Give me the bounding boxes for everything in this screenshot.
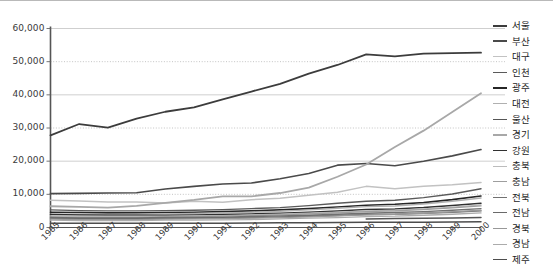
legend-item-충북[interactable]: 충북 [493,158,553,174]
legend-item-label: 전북 [512,193,530,203]
legend-item-제주[interactable]: 제주 [493,252,553,268]
y-tick-label: 10,000 [12,188,44,198]
legend-item-label: 대전 [512,99,530,109]
legend-item-label: 강원 [512,146,530,156]
legend-line-swatch [493,87,507,89]
chart-legend: 서울부산대구인천광주대전울산경기강원충북충남전북전남경북경남제주 [493,18,553,268]
legend-item-인천[interactable]: 인천 [493,65,553,81]
legend-item-label: 울산 [512,115,530,125]
legend-line-swatch [493,103,507,104]
legend-item-광주[interactable]: 광주 [493,80,553,96]
legend-item-label: 경북 [512,224,530,234]
legend-line-swatch [493,228,507,229]
legend-item-경북[interactable]: 경북 [493,221,553,237]
legend-line-swatch [493,197,507,198]
legend-item-서울[interactable]: 서울 [493,18,553,34]
legend-item-전남[interactable]: 전남 [493,205,553,221]
legend-line-swatch [493,56,507,57]
legend-line-swatch [493,244,507,245]
legend-item-label: 충북 [512,161,530,171]
legend-item-충남[interactable]: 충남 [493,174,553,190]
legend-item-label: 전남 [512,208,530,218]
legend-item-대전[interactable]: 대전 [493,96,553,112]
legend-line-swatch [493,25,507,27]
legend-line-swatch [493,212,507,213]
legend-item-울산[interactable]: 울산 [493,112,553,128]
data-series-lines [51,53,482,224]
legend-line-swatch [493,119,507,120]
legend-line-swatch [493,181,507,182]
legend-line-swatch [493,150,507,151]
legend-item-label: 경기 [512,130,530,140]
legend-line-swatch [493,72,507,73]
legend-item-강원[interactable]: 강원 [493,143,553,159]
y-tick-label: 40,000 [12,89,44,99]
legend-item-label: 광주 [512,83,530,93]
legend-line-swatch [493,166,507,167]
legend-item-label: 대구 [512,52,530,62]
y-tick-label: 20,000 [12,155,44,165]
series-line-경기 [51,93,482,207]
legend-line-swatch [493,259,507,260]
legend-item-label: 제주 [512,255,530,265]
legend-item-전북[interactable]: 전북 [493,190,553,206]
legend-item-부산[interactable]: 부산 [493,34,553,50]
legend-item-label: 충남 [512,177,530,187]
legend-item-label: 부산 [512,37,530,47]
y-tick-label: 30,000 [12,122,44,132]
series-line-울산 [366,218,481,219]
chart-figure: 60,00050,00040,00030,00020,00010,0000 19… [0,0,553,274]
legend-item-label: 경남 [512,239,530,249]
legend-item-경기[interactable]: 경기 [493,127,553,143]
y-tick-label: 50,000 [12,56,44,66]
y-tick-label: 60,000 [12,23,44,33]
legend-line-swatch [493,134,507,136]
legend-item-label: 인천 [512,68,530,78]
legend-item-대구[interactable]: 대구 [493,49,553,65]
series-line-서울 [51,53,482,136]
legend-line-swatch [493,40,507,42]
legend-item-경남[interactable]: 경남 [493,236,553,252]
legend-item-label: 서울 [512,21,530,31]
axis-lines [51,27,482,228]
